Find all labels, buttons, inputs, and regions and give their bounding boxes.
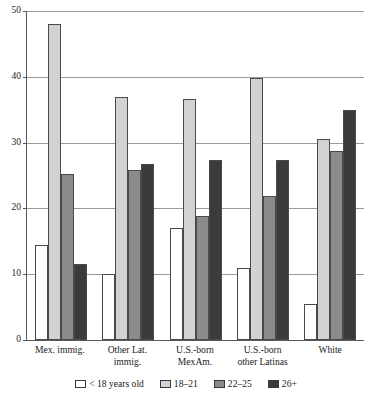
bar bbox=[250, 78, 263, 340]
x-axis-label: U.S.-bornMexAm. bbox=[161, 344, 229, 367]
legend-label: 22–25 bbox=[228, 379, 252, 389]
x-axis-label-line2: immig. bbox=[94, 356, 162, 368]
bar bbox=[170, 228, 183, 340]
bar-chart: 01020304050 Mex. immig.Other Lat.immig.U… bbox=[0, 0, 372, 404]
legend-item: 18–21 bbox=[160, 379, 198, 389]
x-axis-label: White bbox=[296, 344, 364, 367]
x-axis-label-line1: White bbox=[318, 344, 341, 355]
x-axis-labels: Mex. immig.Other Lat.immig.U.S.-bornMexA… bbox=[26, 344, 364, 367]
bar bbox=[343, 110, 356, 340]
bar-group bbox=[297, 11, 364, 340]
bar bbox=[115, 97, 128, 340]
x-axis-label-line1: Other Lat. bbox=[108, 344, 147, 355]
bar-group bbox=[162, 11, 229, 340]
legend-swatch-icon bbox=[268, 380, 279, 388]
y-axis-tick-label: 40 bbox=[12, 72, 22, 82]
bar bbox=[48, 24, 61, 340]
legend-label: 18–21 bbox=[174, 379, 198, 389]
legend-item: < 18 years old bbox=[75, 379, 144, 389]
bar bbox=[128, 170, 141, 340]
legend-item: 26+ bbox=[268, 379, 297, 389]
y-axis-tick-label: 20 bbox=[12, 204, 22, 214]
legend: < 18 years old18–2122–2526+ bbox=[0, 379, 372, 389]
y-axis-tick-label: 0 bbox=[16, 335, 21, 345]
bar bbox=[304, 304, 317, 340]
y-axis-tick-label: 10 bbox=[12, 269, 22, 279]
legend-swatch-icon bbox=[214, 380, 225, 388]
y-axis-tick-label: 30 bbox=[12, 138, 22, 148]
y-axis-tick-label: 50 bbox=[12, 6, 22, 16]
bar-groups bbox=[27, 11, 364, 340]
legend-swatch-icon bbox=[75, 380, 86, 388]
bar-group bbox=[94, 11, 161, 340]
x-axis-label: Other Lat.immig. bbox=[94, 344, 162, 367]
x-axis-label: U.S.-bornother Latinas bbox=[229, 344, 297, 367]
bar bbox=[330, 151, 343, 340]
tick-mark bbox=[23, 340, 27, 341]
bar-group bbox=[27, 11, 94, 340]
x-axis-label-line1: U.S.-born bbox=[244, 344, 282, 355]
x-axis-label: Mex. immig. bbox=[26, 344, 94, 367]
bar-group bbox=[229, 11, 296, 340]
legend-item: 22–25 bbox=[214, 379, 252, 389]
bar bbox=[35, 245, 48, 340]
bar bbox=[74, 264, 87, 340]
bar bbox=[237, 268, 250, 340]
x-axis-label-line2: MexAm. bbox=[161, 356, 229, 368]
bar bbox=[196, 216, 209, 340]
bar bbox=[276, 160, 289, 340]
bar bbox=[141, 164, 154, 340]
x-axis-label-line2: other Latinas bbox=[229, 356, 297, 368]
legend-label: 26+ bbox=[282, 379, 297, 389]
bar bbox=[263, 196, 276, 340]
bar bbox=[61, 174, 74, 340]
bar bbox=[183, 99, 196, 340]
legend-swatch-icon bbox=[160, 380, 171, 388]
bar bbox=[317, 139, 330, 340]
legend-label: < 18 years old bbox=[89, 379, 144, 389]
bar bbox=[102, 274, 115, 340]
bar bbox=[209, 160, 222, 340]
x-axis-label-line1: U.S.-born bbox=[176, 344, 214, 355]
plot-area: 01020304050 bbox=[26, 11, 364, 341]
x-axis-label-line1: Mex. immig. bbox=[35, 344, 85, 355]
